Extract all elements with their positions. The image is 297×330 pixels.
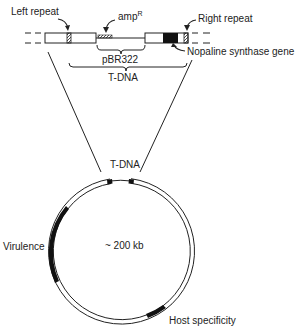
plasmid-tdna-label: T-DNA	[110, 159, 140, 170]
virulence-region	[49, 206, 69, 283]
nopaline-synthase-gene-block	[163, 33, 178, 43]
ti-plasmid-circle	[49, 179, 195, 324]
expansion-line-left	[48, 52, 101, 172]
virulence-label: Virulence	[3, 241, 45, 252]
amp-label: ampR	[118, 10, 143, 22]
host-specificity-label: Host specificity	[169, 315, 236, 326]
amp-resistance-marker	[98, 35, 112, 38]
tdna-linear-map: Left repeat ampR Right repeat pBR322 Nop…	[11, 6, 295, 83]
expansion-line-right	[140, 60, 192, 172]
nopaline-synthase-gene-label: Nopaline synthase gene	[187, 46, 295, 57]
right-flank-dashes	[192, 33, 210, 43]
right-repeat-marker	[184, 33, 188, 43]
pbr322-brace	[97, 45, 145, 54]
ti-plasmid-diagram: Left repeat ampR Right repeat pBR322 Nop…	[0, 0, 297, 330]
left-repeat-marker	[67, 33, 71, 43]
tdna-map-label: T-DNA	[108, 72, 138, 83]
right-repeat-label: Right repeat	[198, 13, 253, 24]
plasmid-size-label: ~ 200 kb	[105, 240, 144, 251]
pbr322-label: pBR322	[102, 54, 139, 65]
left-flank-dashes	[25, 33, 41, 43]
left-repeat-label: Left repeat	[11, 6, 59, 17]
tdna-region-right-mark	[129, 179, 135, 184]
